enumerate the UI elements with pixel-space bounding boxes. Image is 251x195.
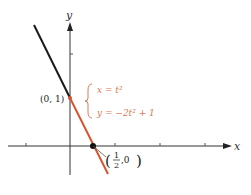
x-axis-label: x bbox=[234, 140, 241, 153]
intercept-label-rest: ,0 bbox=[121, 155, 130, 165]
intercept-label-numerator: 1 bbox=[114, 151, 119, 160]
start-point-label: (0, 1) bbox=[40, 94, 64, 104]
equation-line-2: y = −2t² + 1 bbox=[96, 108, 155, 118]
intercept-label-paren-open: ( bbox=[105, 152, 111, 170]
intercept-label-paren-close: ) bbox=[136, 152, 142, 170]
y-axis-label: y bbox=[65, 9, 73, 22]
start-point bbox=[68, 96, 72, 100]
x-axis-arrow-icon bbox=[223, 143, 232, 149]
equation-line-1: x = t² bbox=[97, 85, 123, 95]
parametric-curve-figure: y x (0, 1) x = t² y = −2t² + 1 ( 1 2 ,0 … bbox=[0, 0, 251, 195]
line-black-segment bbox=[34, 25, 70, 98]
y-axis-arrow-icon bbox=[67, 22, 73, 31]
brace bbox=[85, 84, 92, 118]
intercept-label-denominator: 2 bbox=[114, 161, 119, 170]
